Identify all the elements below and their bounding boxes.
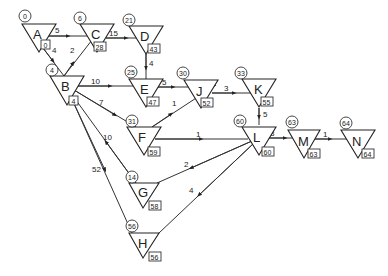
edge-d-e: 4 [146,54,154,79]
svg-text:56: 56 [151,254,159,261]
svg-text:K: K [254,82,263,97]
network-diagram: 5 4 2 15 4 10 [0,0,388,276]
svg-text:60: 60 [264,149,272,156]
svg-text:7: 7 [99,98,104,107]
edge-b-e: 10 [78,77,136,86]
edge-k-l: 5 [259,108,268,125]
svg-text:55: 55 [263,99,271,106]
svg-text:63: 63 [288,119,296,126]
svg-text:56: 56 [128,223,136,230]
svg-text:47: 47 [149,99,157,106]
svg-text:4: 4 [149,59,154,68]
svg-text:J: J [196,84,203,99]
svg-text:4: 4 [50,67,54,74]
svg-text:43: 43 [150,46,158,53]
svg-text:4: 4 [52,46,57,55]
edge-h-l: 4 [159,143,254,233]
svg-text:D: D [140,29,149,44]
svg-text:C: C [91,27,100,42]
svg-text:4: 4 [72,98,76,105]
svg-text:59: 59 [150,149,158,156]
svg-text:F: F [138,130,146,145]
svg-text:63: 63 [310,151,318,158]
svg-text:1: 1 [172,99,177,108]
svg-text:30: 30 [179,70,187,77]
node-h: H 56 56 [126,220,161,261]
svg-text:52: 52 [92,165,101,174]
edge-f-l: 1 [155,130,248,139]
node-a: A 0 0 [19,10,56,52]
svg-text:G: G [138,185,148,200]
svg-text:10: 10 [91,77,100,86]
svg-text:64: 64 [342,120,350,127]
svg-text:52: 52 [203,100,211,107]
svg-text:14: 14 [128,174,136,181]
svg-text:N: N [352,134,361,149]
node-m: M 63 63 [286,116,320,158]
svg-text:1: 1 [323,130,328,139]
svg-text:2: 2 [184,160,189,169]
node-c: C 6 28 [74,12,114,52]
node-d: D 21 43 [123,14,163,54]
svg-text:64: 64 [364,151,372,158]
svg-text:L: L [253,130,260,145]
svg-text:31: 31 [128,118,136,125]
svg-text:60: 60 [236,118,244,125]
edge-g-l: 2 [157,141,252,183]
svg-text:33: 33 [237,70,245,77]
svg-text:25: 25 [127,69,135,76]
node-l: L 60 60 [234,115,276,156]
svg-text:0: 0 [23,13,27,20]
svg-text:H: H [138,236,147,251]
svg-text:4: 4 [189,186,194,195]
svg-text:1: 1 [196,130,201,139]
svg-text:21: 21 [125,17,133,24]
node-k: K 33 55 [235,67,276,107]
svg-text:M: M [298,134,309,149]
edge-b-c: 2 [64,40,92,76]
node-n: N 64 64 [340,117,375,158]
svg-text:28: 28 [96,44,104,51]
svg-text:5: 5 [55,26,60,35]
svg-text:10: 10 [103,133,112,142]
svg-text:2: 2 [70,46,75,55]
node-f: F 31 59 [126,115,161,156]
svg-text:B: B [61,79,70,94]
svg-text:3: 3 [224,84,229,93]
node-b: B 4 4 [46,64,84,105]
svg-text:5: 5 [263,110,268,119]
svg-text:6: 6 [78,15,82,22]
svg-text:58: 58 [151,203,159,210]
node-g: G 14 58 [126,171,161,210]
svg-text:0: 0 [44,42,48,49]
svg-text:E: E [140,82,149,97]
